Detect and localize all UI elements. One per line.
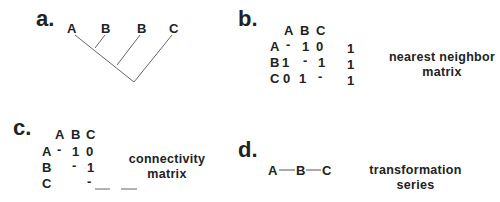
caption-d-line2: series bbox=[363, 178, 468, 193]
caption-d-line1: transformation bbox=[363, 163, 468, 178]
caption-d: transformation series bbox=[363, 163, 468, 193]
